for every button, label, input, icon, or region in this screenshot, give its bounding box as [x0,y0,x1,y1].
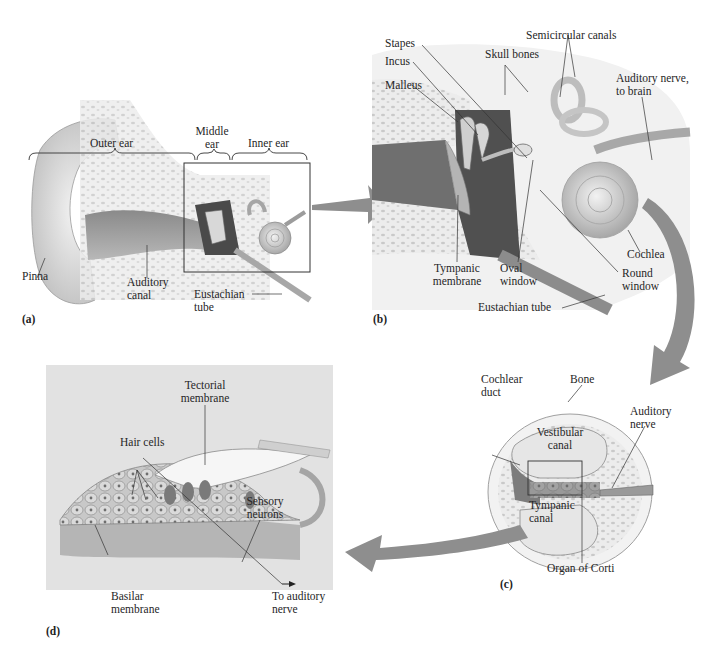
label-auditory-nerve-c: Auditory nerve [630,405,672,431]
label-auditory-nerve-b-line2: to brain [616,85,689,98]
label-stapes: Stapes [385,37,415,50]
panel-d-id: (d) [46,625,60,637]
panel-c-drawing [488,385,653,570]
label-oval-window-line1: Oval [500,262,537,275]
label-vestibular-canal-line2: canal [530,439,590,452]
label-auditory-canal: Auditory canal [127,276,169,302]
label-outer-ear: Outer ear [90,137,133,150]
label-eustachian-tube-a: Eustachian tube [194,288,244,314]
ear-anatomy-illustration [0,0,719,648]
label-cochlear-duct-line2: duct [481,386,523,399]
label-auditory-canal-line1: Auditory [127,276,169,289]
label-sensory-neurons-line2: neurons [240,508,290,521]
panel-a-drawing [29,100,310,304]
label-tympanic-canal-line1: Tympanic [529,499,575,512]
label-organ-of-corti: Organ of Corti [547,562,615,575]
arrow-c-to-d [345,525,528,572]
label-auditory-nerve-b: Auditory nerve, to brain [616,72,689,98]
label-oval-window: Oval window [500,262,537,288]
label-inner-ear: Inner ear [248,137,289,150]
label-middle-ear: Middle ear [193,125,231,151]
label-bone: Bone [570,373,594,386]
label-hair-cells: Hair cells [120,436,164,449]
label-tympanic-canal-line2: canal [529,512,575,525]
label-middle-ear-line1: Middle [193,125,231,138]
label-basilar-membrane: Basilar membrane [111,590,160,616]
label-round-window-line2: window [622,280,659,293]
label-vestibular-canal-line1: Vestibular [530,426,590,439]
label-auditory-canal-line2: canal [127,289,169,302]
label-semicircular-canals: Semicircular canals [526,29,616,42]
label-tympanic-membrane: Tympanic membrane [425,262,489,288]
label-cochlea: Cochlea [627,248,665,261]
label-sensory-neurons-line1: Sensory [240,495,290,508]
label-cochlear-duct: Cochlear duct [481,373,523,399]
label-auditory-nerve-c-line2: nerve [630,418,672,431]
label-tectorial-membrane-line1: Tectorial [172,379,238,392]
label-basilar-membrane-line1: Basilar [111,590,160,603]
label-middle-ear-line2: ear [193,138,231,151]
label-vestibular-canal: Vestibular canal [530,426,590,452]
label-round-window-line1: Round [622,267,659,280]
label-eustachian-tube-a-line2: tube [194,301,244,314]
label-to-auditory-nerve-line2: nerve [272,603,325,616]
label-incus: Incus [385,55,410,68]
label-tympanic-membrane-line2: membrane [425,275,489,288]
label-auditory-nerve-b-line1: Auditory nerve, [616,72,689,85]
label-eustachian-tube-b: Eustachian tube [478,301,551,314]
label-tectorial-membrane-line2: membrane [172,392,238,405]
label-sensory-neurons: Sensory neurons [240,495,290,521]
label-eustachian-tube-a-line1: Eustachian [194,288,244,301]
label-cochlear-duct-line1: Cochlear [481,373,523,386]
label-oval-window-line2: window [500,275,537,288]
label-malleus: Malleus [385,79,422,92]
label-auditory-nerve-c-line1: Auditory [630,405,672,418]
label-round-window: Round window [622,267,659,293]
panel-a-id: (a) [22,313,35,325]
label-skull-bones: Skull bones [485,48,539,61]
label-tectorial-membrane: Tectorial membrane [172,379,238,405]
label-to-auditory-nerve-line1: To auditory [272,590,325,603]
label-basilar-membrane-line2: membrane [111,603,160,616]
label-tympanic-membrane-line1: Tympanic [425,262,489,275]
panel-c-id: (c) [500,578,513,590]
label-to-auditory-nerve: To auditory nerve [272,590,325,616]
label-tympanic-canal: Tympanic canal [529,499,575,525]
panel-b-id: (b) [373,313,387,325]
label-pinna: Pinna [22,270,48,283]
